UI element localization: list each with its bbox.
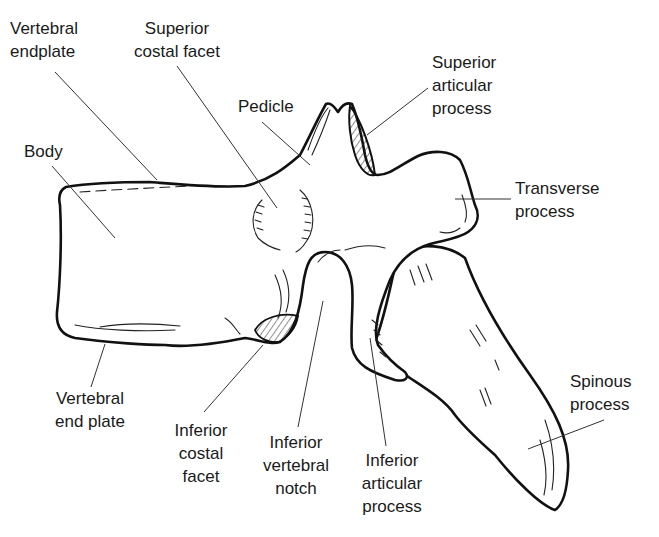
leader-vertebral-end-plate xyxy=(91,344,105,387)
label-vertebral-end-plate: Vertebral end plate xyxy=(40,387,140,433)
label-inferior-articular-process: Inferior articular process xyxy=(350,449,434,518)
leader-inferior-costal-facet xyxy=(204,345,263,412)
label-transverse-process: Transverse process xyxy=(515,177,599,223)
leader-inferior-vertebral-notch xyxy=(298,301,323,427)
leader-spinous-process xyxy=(528,420,604,449)
label-inferior-costal-facet: Inferior costal facet xyxy=(160,419,242,488)
label-spinous-process: Spinous process xyxy=(570,370,631,416)
leader-body xyxy=(52,166,115,238)
label-pedicle: Pedicle xyxy=(238,95,294,118)
leader-superior-costal-facet xyxy=(177,66,277,208)
label-superior-articular-process: Superior articular process xyxy=(432,51,496,120)
label-inferior-vertebral-notch: Inferior vertebral notch xyxy=(252,431,340,500)
label-body: Body xyxy=(24,140,63,163)
leader-vertebral-endplate xyxy=(55,72,157,180)
leader-pedicle xyxy=(262,122,310,165)
label-superior-costal-facet: Superior costal facet xyxy=(122,17,232,63)
leader-superior-articular-process xyxy=(367,88,428,135)
label-vertebral-endplate: Vertebral endplate xyxy=(10,17,78,63)
vertebra-diagram: Vertebral endplate Superior costal facet… xyxy=(0,0,659,537)
leader-inferior-articular-process xyxy=(370,338,386,446)
